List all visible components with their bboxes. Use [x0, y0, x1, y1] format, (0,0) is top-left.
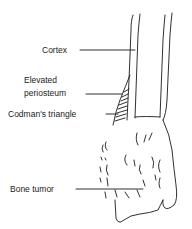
tumor-outline-bottom: [115, 200, 163, 222]
label-elevated-periosteum-line2: periosteum: [24, 88, 66, 98]
label-cortex: Cortex: [42, 45, 67, 55]
label-bone-tumor: Bone tumor: [10, 184, 54, 194]
cortex-left-outer: [127, 15, 133, 120]
label-codmans-triangle: Codman's triangle: [8, 109, 76, 119]
bone-tumor-diagram: Cortex Elevated periosteum Codman's tria…: [0, 0, 192, 229]
label-elevated-periosteum-line1: Elevated: [24, 75, 57, 85]
cortex-right-outer: [163, 13, 172, 120]
cortex-left-inner: [135, 14, 140, 118]
medullary-bottom: [135, 117, 160, 118]
cortex-right-inner: [160, 15, 165, 117]
tumor-outline-right: [163, 120, 177, 209]
